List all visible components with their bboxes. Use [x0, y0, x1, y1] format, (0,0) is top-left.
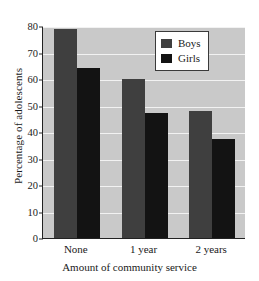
legend: Boys Girls	[155, 31, 209, 71]
bar-series-container	[43, 27, 245, 238]
x-axis-title: Amount of community service	[0, 261, 259, 273]
bar-boys-1-year[interactable]	[122, 79, 145, 238]
y-tick-label: 30	[12, 155, 38, 165]
y-tick-label: 60	[12, 75, 38, 85]
legend-swatch-girls-icon	[161, 54, 172, 63]
bar-boys-none[interactable]	[54, 29, 77, 238]
y-tick-label: 80	[12, 22, 38, 32]
y-tick-label: 40	[12, 128, 38, 138]
y-tick-label: 70	[12, 49, 38, 59]
x-tick-label: 2 years	[195, 243, 226, 255]
legend-item-boys[interactable]: Boys	[161, 36, 201, 51]
y-tick-label: 10	[12, 208, 38, 218]
y-tick-label: 0	[12, 234, 38, 244]
bar-girls-1-year[interactable]	[145, 113, 168, 238]
legend-label-boys: Boys	[178, 38, 201, 49]
x-tick-label: 1 year	[130, 243, 157, 255]
plot-area: Boys Girls	[42, 27, 245, 239]
bar-chart-figure: Percentage of adolescents 01020304050607…	[0, 0, 259, 281]
x-axis-tick-labels: None1 year2 years	[42, 243, 245, 257]
bar-boys-2-years[interactable]	[189, 111, 212, 238]
y-tick-label: 50	[12, 102, 38, 112]
legend-swatch-boys-icon	[161, 39, 172, 48]
legend-item-girls[interactable]: Girls	[161, 51, 201, 66]
legend-label-girls: Girls	[178, 53, 200, 64]
bar-group	[54, 27, 100, 238]
y-tick-label: 20	[12, 181, 38, 191]
y-axis-tick-labels: 01020304050607080	[12, 27, 38, 239]
bar-girls-none[interactable]	[77, 68, 100, 238]
bar-girls-2-years[interactable]	[212, 139, 235, 238]
x-tick-label: None	[64, 243, 88, 255]
